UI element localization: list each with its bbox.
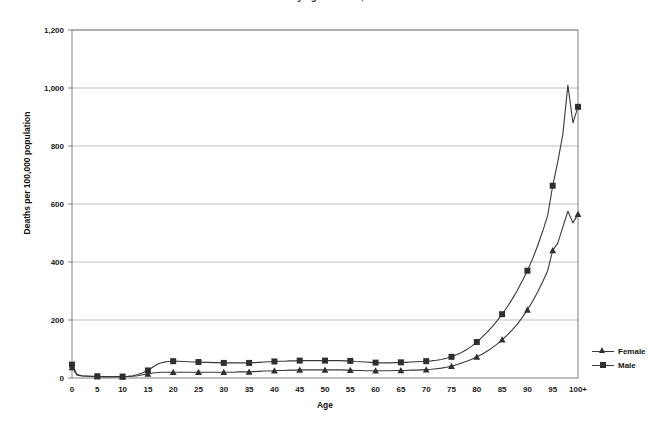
square-marker-icon bbox=[592, 359, 614, 371]
x-tick-label: 25 bbox=[194, 385, 203, 394]
x-tick-label: 20 bbox=[169, 385, 178, 394]
x-tick-label: 30 bbox=[219, 385, 228, 394]
square-marker-icon bbox=[550, 183, 556, 189]
y-tick-label: 200 bbox=[51, 316, 65, 325]
square-marker-icon bbox=[373, 360, 379, 366]
y-tick-label: 600 bbox=[51, 200, 65, 209]
x-tick-label: 40 bbox=[270, 385, 279, 394]
data-series-group bbox=[72, 85, 578, 377]
series-line-female bbox=[72, 211, 578, 377]
square-marker-icon bbox=[398, 359, 404, 365]
chart-figure: Death rates by age and sex, United State… bbox=[0, 0, 664, 432]
y-tick-label: 400 bbox=[51, 258, 65, 267]
y-axis-title: Deaths per 100,000 population bbox=[22, 73, 32, 273]
square-marker-icon bbox=[499, 311, 505, 317]
y-axis-tick-labels: 02004006008001,0001,200 bbox=[44, 26, 65, 383]
chart-legend: Female Male bbox=[592, 344, 660, 372]
y-tick-label: 0 bbox=[60, 374, 65, 383]
square-marker-icon bbox=[474, 339, 480, 345]
y-tick-label: 1,200 bbox=[44, 26, 65, 35]
x-tick-label: 70 bbox=[422, 385, 431, 394]
x-tick-label: 85 bbox=[498, 385, 507, 394]
x-axis-tick-labels: 0510152025303540455055606570758085909510… bbox=[70, 385, 588, 394]
chart-plot-svg: 02004006008001,0001,200 0510152025303540… bbox=[0, 0, 664, 432]
square-marker-icon bbox=[423, 358, 429, 364]
x-tick-label: 45 bbox=[295, 385, 304, 394]
x-tick-label: 80 bbox=[472, 385, 481, 394]
x-tick-label: 75 bbox=[447, 385, 456, 394]
square-marker-icon bbox=[196, 359, 202, 365]
x-tick-label: 55 bbox=[346, 385, 355, 394]
x-tick-label: 95 bbox=[548, 385, 557, 394]
triangle-marker-icon bbox=[592, 345, 614, 357]
square-marker-icon bbox=[449, 354, 455, 360]
triangle-marker-icon bbox=[524, 306, 531, 312]
series-line-male bbox=[72, 85, 578, 376]
x-tick-label: 65 bbox=[396, 385, 405, 394]
x-axis-title: Age bbox=[72, 400, 578, 410]
gridlines-group bbox=[72, 30, 578, 320]
square-marker-icon bbox=[524, 268, 530, 274]
triangle-marker-icon bbox=[575, 211, 582, 217]
x-tick-label: 10 bbox=[118, 385, 127, 394]
x-tick-label: 5 bbox=[95, 385, 100, 394]
square-marker-icon bbox=[347, 358, 353, 364]
x-tick-label: 0 bbox=[70, 385, 75, 394]
x-tick-label: 50 bbox=[321, 385, 330, 394]
y-tick-label: 800 bbox=[51, 142, 65, 151]
square-marker-icon bbox=[271, 358, 277, 364]
x-tick-label: 15 bbox=[143, 385, 152, 394]
square-marker-icon bbox=[246, 360, 252, 366]
y-tick-label: 1,000 bbox=[44, 84, 65, 93]
square-marker-icon bbox=[322, 358, 328, 364]
x-tick-label: 90 bbox=[523, 385, 532, 394]
square-marker-icon bbox=[297, 358, 303, 364]
x-tick-label: 60 bbox=[371, 385, 380, 394]
legend-item-female[interactable]: Female bbox=[592, 344, 660, 358]
x-tick-label: 100+ bbox=[569, 385, 587, 394]
legend-label-female: Female bbox=[614, 347, 646, 356]
square-marker-icon bbox=[575, 104, 581, 110]
square-marker-icon bbox=[170, 358, 176, 364]
legend-label-male: Male bbox=[614, 361, 636, 370]
legend-item-male[interactable]: Male bbox=[592, 358, 660, 372]
square-marker-icon bbox=[221, 360, 227, 366]
triangle-marker-icon bbox=[473, 353, 480, 359]
x-tick-label: 35 bbox=[245, 385, 254, 394]
